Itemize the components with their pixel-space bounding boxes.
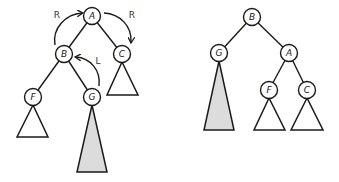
node-b-after: B bbox=[244, 9, 261, 26]
tree-rotation-diagram: R R L A B C F G bbox=[0, 0, 339, 182]
node-c-after: C bbox=[299, 82, 316, 99]
node-a-before: A bbox=[84, 8, 101, 25]
node-f-after: F bbox=[261, 82, 278, 99]
subtree-g-after-highlighted bbox=[204, 61, 234, 130]
rotation-arrow-r-right bbox=[104, 13, 131, 42]
subtree-c-after bbox=[291, 98, 323, 130]
svg-text:C: C bbox=[119, 49, 126, 59]
svg-text:F: F bbox=[30, 92, 36, 102]
arrow-label-r-left: R bbox=[54, 10, 60, 20]
node-c-before: C bbox=[114, 46, 131, 63]
subtree-c-before bbox=[107, 62, 138, 95]
node-g-after: G bbox=[211, 45, 228, 62]
node-g-before: G bbox=[84, 89, 101, 106]
subtree-g-before-highlighted bbox=[77, 105, 107, 172]
svg-text:B: B bbox=[249, 12, 255, 22]
svg-text:G: G bbox=[216, 48, 223, 58]
arrow-label-l: L bbox=[95, 56, 100, 66]
tree-before: R R L A B C F G bbox=[17, 8, 138, 173]
node-f-before: F bbox=[25, 89, 42, 106]
svg-text:F: F bbox=[266, 85, 272, 95]
svg-text:A: A bbox=[285, 48, 292, 58]
node-b-before: B bbox=[56, 46, 73, 63]
arrow-label-r-right: R bbox=[129, 10, 135, 20]
subtree-f-before bbox=[17, 105, 48, 137]
tree-after: B G A F C bbox=[204, 9, 323, 131]
svg-text:A: A bbox=[88, 11, 95, 21]
svg-text:B: B bbox=[61, 49, 67, 59]
svg-text:C: C bbox=[304, 85, 311, 95]
node-a-after: A bbox=[281, 45, 298, 62]
svg-text:G: G bbox=[89, 92, 96, 102]
subtree-f-after bbox=[254, 98, 285, 130]
